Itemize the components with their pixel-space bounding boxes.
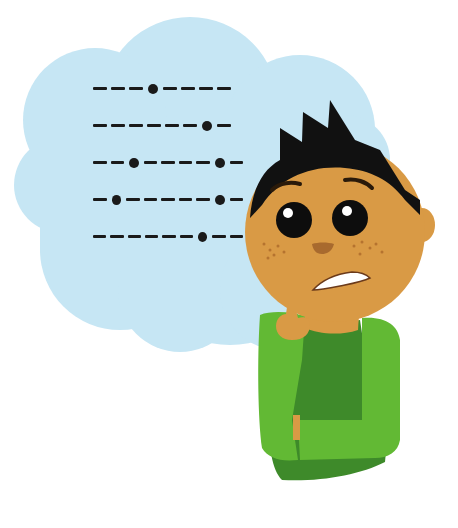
morse-row-2 xyxy=(93,107,243,144)
morse-row-5 xyxy=(93,218,243,255)
morse-dash xyxy=(180,235,193,239)
morse-dot xyxy=(148,84,158,94)
sweater xyxy=(258,312,400,480)
morse-dash xyxy=(162,235,175,239)
morse-dash xyxy=(165,124,179,128)
morse-dash xyxy=(126,198,140,202)
morse-dash xyxy=(212,235,225,239)
morse-dash xyxy=(161,161,175,165)
morse-dash xyxy=(230,161,244,165)
morse-dot xyxy=(215,158,225,168)
morse-dash xyxy=(147,124,161,128)
morse-dash xyxy=(111,161,125,165)
morse-dash xyxy=(196,198,210,202)
morse-dash xyxy=(230,235,243,239)
morse-dash xyxy=(93,161,107,165)
morse-dash xyxy=(93,87,107,91)
morse-dash xyxy=(217,87,231,91)
morse-dot xyxy=(215,195,225,205)
morse-dash xyxy=(144,161,158,165)
morse-dash xyxy=(128,235,141,239)
morse-dash xyxy=(129,124,143,128)
illustration xyxy=(0,0,458,528)
morse-dash xyxy=(93,235,106,239)
morse-row-1 xyxy=(93,70,243,107)
morse-dash xyxy=(144,198,158,202)
morse-dash xyxy=(196,161,210,165)
morse-dash xyxy=(230,198,244,202)
morse-dash xyxy=(110,235,123,239)
morse-dash xyxy=(199,87,213,91)
morse-dash xyxy=(179,198,193,202)
morse-dash xyxy=(129,87,143,91)
morse-row-4 xyxy=(93,181,243,218)
morse-dash xyxy=(183,124,197,128)
morse-dot xyxy=(198,232,208,242)
morse-code-sequences xyxy=(93,70,243,255)
morse-dash xyxy=(111,124,125,128)
morse-dash xyxy=(181,87,195,91)
morse-dot xyxy=(112,195,122,205)
morse-row-3 xyxy=(93,144,243,181)
morse-dash xyxy=(163,87,177,91)
morse-dash xyxy=(161,198,175,202)
morse-dash xyxy=(145,235,158,239)
morse-dash xyxy=(179,161,193,165)
morse-dot xyxy=(202,121,212,131)
morse-dash xyxy=(93,198,107,202)
morse-dash xyxy=(217,124,231,128)
morse-dash xyxy=(111,87,125,91)
morse-dot xyxy=(129,158,139,168)
morse-dash xyxy=(93,124,107,128)
